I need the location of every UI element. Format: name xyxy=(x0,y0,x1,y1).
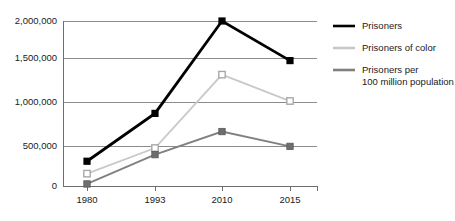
legend-label-prisoners-per-100-million: Prisoners per xyxy=(362,64,419,75)
chart-svg: 2,000,000 1,500,000 1,000,000 500,000 0 … xyxy=(0,0,455,221)
x-tick-label: 2015 xyxy=(279,194,300,205)
axis-lines xyxy=(63,21,317,186)
series-line xyxy=(87,75,290,174)
y-tick-label: 0 xyxy=(52,180,57,191)
x-tickmarks xyxy=(87,186,317,191)
y-tick-label: 2,000,000 xyxy=(15,15,57,26)
data-point-marker xyxy=(151,110,158,117)
data-point-marker xyxy=(218,17,225,24)
data-point-marker xyxy=(219,128,225,134)
data-point-marker xyxy=(286,57,293,64)
legend-label-prisoners-per-100-million-line2: 100 million population xyxy=(362,76,454,87)
data-point-marker xyxy=(287,98,293,104)
legend-label-prisoners: Prisoners xyxy=(362,20,402,31)
x-tick-label: 1980 xyxy=(76,194,97,205)
data-point-marker xyxy=(287,143,293,149)
legend-label-prisoners-of-color: Prisoners of color xyxy=(362,42,436,53)
gridlines xyxy=(63,21,317,146)
data-point-marker xyxy=(83,158,90,165)
line-chart-figure: 2,000,000 1,500,000 1,000,000 500,000 0 … xyxy=(0,0,455,221)
x-axis-tick-labels: 1980 1993 2010 2015 xyxy=(76,194,300,205)
data-point-marker xyxy=(84,181,90,187)
x-tick-label: 2010 xyxy=(211,194,232,205)
data-point-marker xyxy=(84,170,90,176)
y-tick-label: 1,500,000 xyxy=(15,52,57,63)
y-tick-label: 1,000,000 xyxy=(15,96,57,107)
chart-legend: Prisoners Prisoners of color Prisoners p… xyxy=(333,20,454,87)
data-point-marker xyxy=(152,145,158,151)
y-axis-tick-labels: 2,000,000 1,500,000 1,000,000 500,000 0 xyxy=(15,15,57,191)
y-tick-label: 500,000 xyxy=(23,140,57,151)
data-point-marker xyxy=(152,151,158,157)
data-point-marker xyxy=(219,71,225,77)
x-tick-label: 1993 xyxy=(144,194,165,205)
